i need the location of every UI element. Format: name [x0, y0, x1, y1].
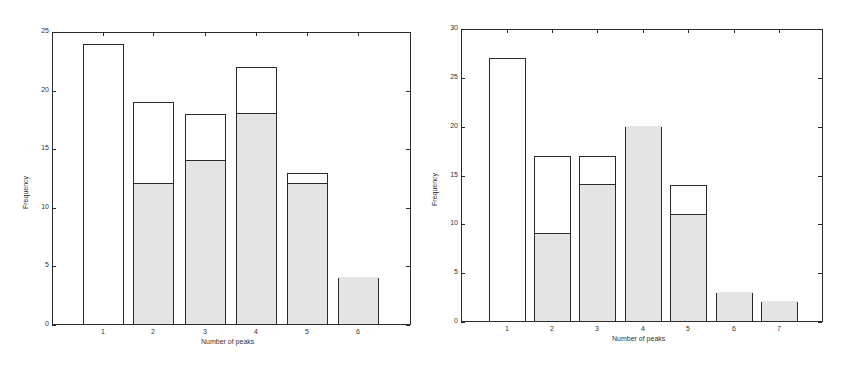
y-tick [52, 325, 56, 326]
y-tick-label: 30 [438, 24, 458, 31]
bar-shaded-segment [762, 301, 797, 321]
x-tick [552, 29, 553, 33]
bar-1 [83, 44, 124, 325]
x-tick-label: 4 [248, 328, 264, 335]
y-tick-label: 15 [438, 171, 458, 178]
bar-shaded-segment [288, 183, 327, 324]
y-tick-right [406, 91, 410, 92]
x-tick [597, 29, 598, 33]
bar-shaded-segment [339, 277, 378, 324]
x-tick-label: 6 [350, 328, 366, 335]
x-tick-label: 4 [635, 325, 651, 332]
y-tick [461, 273, 465, 274]
bar-6 [716, 293, 753, 322]
x-tick [688, 29, 689, 33]
bar-4 [625, 127, 662, 322]
bar-shaded-segment [580, 184, 615, 321]
x-tick-label: 2 [145, 328, 161, 335]
y-tick-right [818, 127, 822, 128]
bar-7 [761, 302, 798, 322]
y-tick-label: 20 [29, 86, 49, 93]
y-tick-right [818, 322, 822, 323]
bar-shaded-segment [626, 126, 661, 321]
y-tick [52, 149, 56, 150]
bar-shaded-segment [535, 233, 570, 321]
y-tick-label: 5 [29, 261, 49, 268]
y-tick [52, 208, 56, 209]
y-tick-right [818, 78, 822, 79]
bar-2 [534, 156, 571, 322]
y-tick [461, 127, 465, 128]
bar-5 [670, 185, 707, 322]
bar-2 [133, 102, 174, 325]
y-axis-title: Frequency [431, 172, 438, 205]
y-tick-label: 10 [29, 203, 49, 210]
y-tick [52, 266, 56, 267]
bar-3 [185, 114, 226, 325]
y-tick-label: 10 [438, 219, 458, 226]
x-tick [256, 32, 257, 36]
bar-3 [579, 156, 616, 322]
x-tick [153, 32, 154, 36]
bar-1 [489, 58, 526, 322]
x-tick [358, 32, 359, 36]
y-tick-right [818, 224, 822, 225]
bar-4 [236, 67, 277, 325]
y-tick-label: 15 [29, 144, 49, 151]
y-axis-title: Frequency [22, 175, 29, 208]
y-tick-label: 5 [438, 268, 458, 275]
x-tick-label: 2 [544, 325, 560, 332]
y-tick [461, 78, 465, 79]
bar-6 [338, 278, 379, 325]
x-tick-label: 7 [771, 325, 787, 332]
bar-shaded-segment [671, 214, 706, 321]
y-tick-label: 25 [29, 27, 49, 34]
y-tick-label: 25 [438, 73, 458, 80]
bar-shaded-segment [134, 183, 173, 324]
y-tick-right [818, 29, 822, 30]
x-tick-label: 1 [499, 325, 515, 332]
x-tick-label: 3 [197, 328, 213, 335]
bar-shaded-segment [186, 160, 225, 324]
x-tick [643, 29, 644, 33]
x-tick [307, 32, 308, 36]
x-tick [103, 32, 104, 36]
x-tick-label: 5 [299, 328, 315, 335]
y-tick [52, 32, 56, 33]
y-tick-right [406, 266, 410, 267]
bar-shaded-segment [237, 113, 276, 324]
y-tick-right [406, 149, 410, 150]
x-tick-label: 6 [726, 325, 742, 332]
x-tick-label: 5 [680, 325, 696, 332]
y-tick-right [406, 32, 410, 33]
y-tick-label: 0 [438, 317, 458, 324]
y-tick [461, 224, 465, 225]
y-tick-right [818, 273, 822, 274]
y-tick-label: 20 [438, 122, 458, 129]
bar-5 [287, 173, 328, 325]
x-axis-title: Number of peaks [612, 335, 665, 342]
y-tick [461, 322, 465, 323]
x-tick [779, 29, 780, 33]
x-tick [507, 29, 508, 33]
y-tick-right [818, 176, 822, 177]
x-tick [734, 29, 735, 33]
y-tick-label: 0 [29, 320, 49, 327]
y-tick [461, 176, 465, 177]
y-tick-right [406, 208, 410, 209]
x-tick [205, 32, 206, 36]
bar-shaded-segment [717, 292, 752, 321]
x-tick-label: 3 [589, 325, 605, 332]
x-axis-title: Number of peaks [201, 338, 254, 345]
y-tick [52, 91, 56, 92]
y-tick-right [406, 325, 410, 326]
x-tick-label: 1 [95, 328, 111, 335]
y-tick [461, 29, 465, 30]
